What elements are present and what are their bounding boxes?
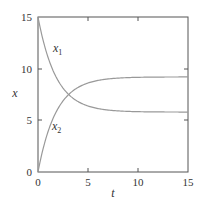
tick-marks: [38, 17, 188, 172]
svg-text:5: 5: [27, 114, 33, 126]
series-x2-label: x2: [51, 119, 61, 135]
series-x2-line: [38, 77, 188, 172]
plot-frame: [38, 17, 188, 172]
svg-text:10: 10: [21, 63, 33, 75]
y-axis-label: x: [11, 86, 18, 100]
svg-text:15: 15: [183, 176, 195, 188]
x-axis-label: t: [111, 186, 115, 200]
series-x1-label: x1: [52, 41, 62, 57]
series-x1-line: [38, 17, 188, 112]
svg-text:10: 10: [133, 176, 145, 188]
svg-text:5: 5: [85, 176, 91, 188]
chart: 0 5 10 15 0 5 10 15 t x x1 x2: [0, 0, 201, 205]
svg-text:0: 0: [35, 176, 41, 188]
y-tick-labels: 0 5 10 15: [21, 11, 33, 178]
svg-text:0: 0: [27, 166, 33, 178]
svg-text:15: 15: [21, 11, 33, 23]
